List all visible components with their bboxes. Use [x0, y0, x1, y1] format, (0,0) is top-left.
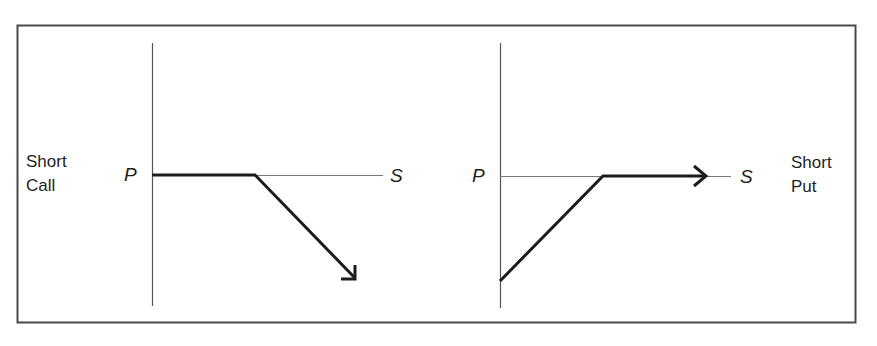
short-put-p-label: P [472, 165, 485, 187]
short-call-title-line1: Short [26, 150, 67, 173]
short-put-title-line2: Put [791, 175, 817, 198]
short-put-title-line1: Short [791, 151, 832, 174]
short-put-payoff-line [500, 176, 705, 281]
short-put-s-label: S [740, 166, 753, 188]
short-call-title-line2: Call [26, 174, 55, 197]
short-put-panel [500, 43, 731, 308]
short-call-panel [152, 43, 383, 306]
short-call-p-label: P [124, 164, 137, 186]
figure-frame [18, 26, 856, 323]
short-call-s-label: S [390, 165, 403, 187]
short-call-payoff-line [152, 175, 354, 277]
